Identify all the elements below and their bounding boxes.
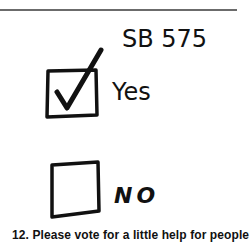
caption-text: 12. Please vote for a little help for pe… <box>12 228 249 242</box>
svg-text:SB 575: SB 575 <box>122 25 207 53</box>
yes-checkbox[interactable] <box>47 70 97 117</box>
no-label: NO <box>114 183 159 208</box>
checkmark-icon <box>57 50 101 108</box>
no-checkbox[interactable] <box>52 162 99 217</box>
yes-label: Yes <box>111 78 151 106</box>
ballot-title: SB 575 <box>122 25 207 53</box>
handdrawn-ballot: SB 575 Yes NO <box>0 0 237 225</box>
